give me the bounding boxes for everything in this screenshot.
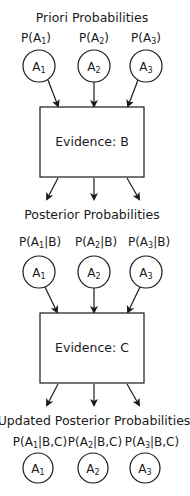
updated-node-a3: A3	[130, 453, 160, 483]
posterior-label-1: P(A1|B)	[19, 235, 61, 250]
updated-label-2: P(A2|B,C)	[68, 435, 122, 450]
posterior-node-a1: A1	[23, 256, 55, 288]
posterior-node-a3: A3	[130, 256, 162, 288]
svg-text:A3: A3	[139, 266, 152, 281]
posterior-title: Posterior Probabilities	[24, 207, 160, 222]
arrows-posterior-to-c	[45, 287, 140, 312]
bayesian-update-diagram: Priori Probabilities P(A1) P(A2) P(A3) A…	[0, 0, 190, 496]
priori-node-a1: A1	[23, 50, 55, 82]
priori-node-a2: A2	[78, 50, 110, 82]
priori-label-2: P(A2)	[79, 31, 109, 46]
posterior-label-2: P(A2|B)	[75, 235, 117, 250]
priori-label-3: P(A3)	[131, 31, 161, 46]
priori-node-a3: A3	[130, 50, 162, 82]
svg-text:A1: A1	[32, 266, 45, 281]
updated-title: Updated Posterior Probabilities	[0, 413, 190, 428]
svg-text:A1: A1	[32, 60, 45, 75]
svg-text:A3: A3	[139, 60, 152, 75]
svg-text:A2: A2	[87, 266, 100, 281]
priori-label-1: P(A1)	[21, 31, 51, 46]
svg-text:A1: A1	[31, 462, 44, 477]
evidence-c-box: Evidence: C	[40, 313, 144, 383]
svg-text:A2: A2	[86, 462, 99, 477]
posterior-node-a2: A2	[78, 256, 110, 288]
evidence-b-box: Evidence: B	[40, 107, 144, 177]
updated-node-a1: A1	[23, 453, 53, 483]
evidence-b-label: Evidence: B	[55, 134, 129, 149]
arrows-c-to-updated	[47, 384, 139, 405]
arrows-priori-to-b	[48, 80, 138, 106]
priori-title: Priori Probabilities	[36, 10, 149, 25]
evidence-c-label: Evidence: C	[55, 340, 129, 355]
svg-text:A3: A3	[138, 462, 151, 477]
updated-label-3: P(A3|B,C)	[125, 435, 179, 450]
updated-label-1: P(A1|B,C)	[13, 435, 67, 450]
svg-text:A2: A2	[87, 60, 100, 75]
posterior-label-3: P(A3|B)	[128, 235, 170, 250]
arrows-b-to-posterior	[47, 178, 139, 199]
updated-node-a2: A2	[78, 453, 108, 483]
